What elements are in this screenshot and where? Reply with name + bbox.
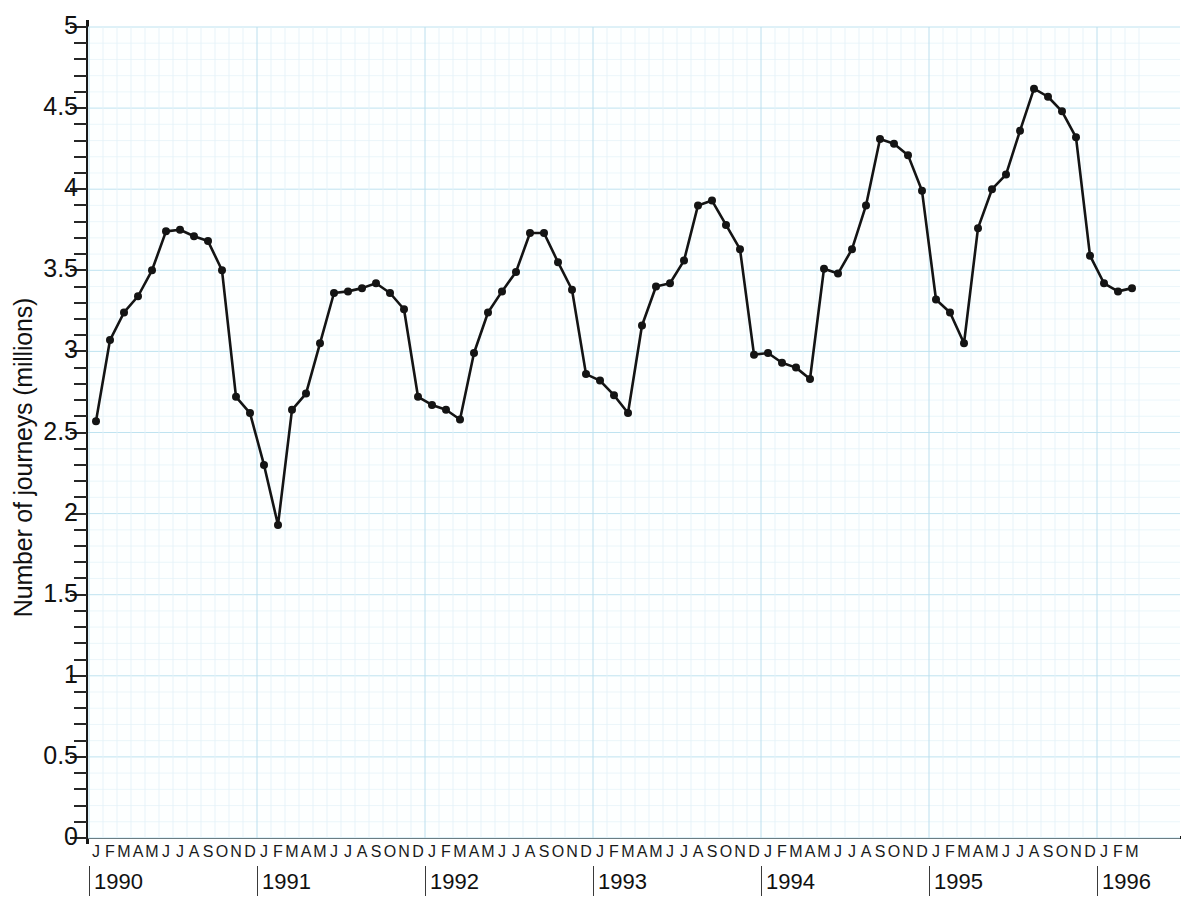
y-tick [74, 302, 87, 304]
year-separator [1097, 866, 1098, 896]
y-tick [74, 383, 87, 385]
y-tick [74, 367, 87, 369]
year-separator [425, 866, 426, 896]
plot-area [88, 27, 1180, 838]
x-year-label: 1994 [766, 869, 815, 895]
y-tick [74, 480, 87, 482]
x-year-label: 1993 [598, 869, 647, 895]
y-tick-label: 5 [18, 11, 78, 40]
x-year-label: 1991 [262, 869, 311, 895]
y-axis-title: Number of journeys (millions) [0, 0, 46, 915]
y-tick [74, 286, 87, 288]
y-tick [74, 123, 87, 125]
y-tick-label: 4 [18, 173, 78, 202]
y-tick [74, 156, 87, 158]
y-tick [74, 626, 87, 628]
y-tick [74, 772, 87, 774]
y-tick [74, 204, 87, 206]
year-separator [89, 866, 90, 896]
y-tick [74, 42, 87, 44]
y-tick [74, 723, 87, 725]
data-series-line [88, 27, 1180, 838]
y-tick [74, 691, 87, 693]
x-month-label: M [1124, 843, 1140, 861]
y-tick-label: 0.5 [18, 741, 78, 770]
y-tick [74, 707, 87, 709]
y-tick-label: 3 [18, 335, 78, 364]
x-year-label: 1995 [934, 869, 983, 895]
y-tick-label: 2 [18, 498, 78, 527]
y-tick-label: 1 [18, 660, 78, 689]
year-separator [257, 866, 258, 896]
y-tick [74, 788, 87, 790]
y-tick [74, 399, 87, 401]
y-tick [74, 561, 87, 563]
y-tick [74, 610, 87, 612]
y-tick-label: 1.5 [18, 579, 78, 608]
y-tick [74, 805, 87, 807]
y-tick-label: 0 [18, 822, 78, 851]
y-tick [74, 237, 87, 239]
x-axis-year-labels: 1990199119921993199419951996 [88, 869, 1180, 899]
x-year-label: 1992 [430, 869, 479, 895]
year-separator [929, 866, 930, 896]
y-tick [74, 448, 87, 450]
year-separator [761, 866, 762, 896]
x-year-label: 1990 [94, 869, 143, 895]
year-separator [593, 866, 594, 896]
line-chart-figure: Number of journeys (millions) 00.511.522… [0, 0, 1204, 915]
y-tick [74, 140, 87, 142]
x-year-label: 1996 [1102, 869, 1151, 895]
y-tick-label: 4.5 [18, 92, 78, 121]
y-tick [74, 221, 87, 223]
y-tick [74, 545, 87, 547]
y-tick-label: 2.5 [18, 417, 78, 446]
y-tick [74, 464, 87, 466]
y-tick [74, 75, 87, 77]
y-tick [74, 58, 87, 60]
y-tick [74, 318, 87, 320]
x-axis-month-labels: JFMAMJJASONDJFMAMJJASONDJFMAMJJASONDJFMA… [88, 843, 1180, 869]
y-tick-label: 3.5 [18, 254, 78, 283]
y-tick [74, 529, 87, 531]
y-tick [74, 642, 87, 644]
